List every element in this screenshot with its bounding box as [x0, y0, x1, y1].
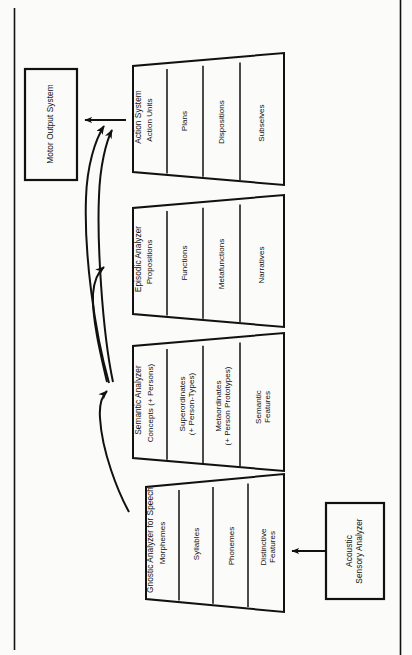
episodic-analyzer-outline	[133, 195, 284, 327]
figure-page: Motor Output System Acoustic Sensory Ana…	[0, 0, 412, 655]
episodic-to-action-arrow	[99, 130, 113, 382]
gnostic-to-semantic-arrow	[100, 391, 129, 512]
gnostic-analyzer-outline	[146, 474, 284, 612]
episodic-analyzer-module[interactable]	[133, 195, 284, 327]
action-system-outline	[133, 53, 284, 185]
action-system-module[interactable]	[133, 53, 284, 185]
acoustic-sensory-analyzer-box[interactable]	[326, 503, 384, 599]
motor-output-system-box[interactable]	[25, 69, 77, 180]
gnostic-analyzer-for-speech-module[interactable]	[146, 474, 284, 612]
semantic-analyzer-module[interactable]	[133, 333, 284, 471]
diagram-canvas	[0, 0, 412, 655]
semantic-to-action-arrow	[86, 126, 109, 383]
semantic-analyzer-outline	[133, 333, 284, 471]
